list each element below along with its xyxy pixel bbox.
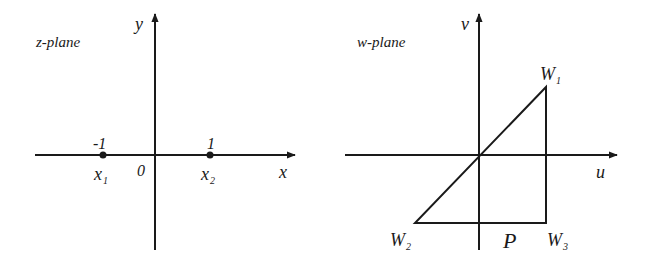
point-x1-value: -1: [93, 135, 106, 152]
z-plane-panel: z-plane x y 0 -1 x1 1 x2: [35, 14, 295, 250]
point-x2: 1 x2: [200, 135, 215, 186]
point-x2-name: x2: [200, 164, 215, 186]
point-x1: -1 x1: [93, 135, 108, 186]
w-plane-title: w-plane: [357, 34, 406, 50]
diagram-canvas: z-plane x y 0 -1 x1 1 x2 w-plane u v: [0, 0, 647, 267]
point-x2-dot: [207, 152, 214, 159]
point-x2-value: 1: [207, 135, 215, 152]
vertex-w3: W3: [547, 230, 568, 252]
point-x1-name: x1: [93, 164, 108, 186]
z-plane-title: z-plane: [35, 34, 81, 50]
region-label: P: [502, 228, 516, 253]
v-axis-label: v: [461, 14, 469, 34]
point-x1-dot: [100, 152, 107, 159]
vertex-w1: W1: [540, 64, 561, 86]
y-axis-label: y: [133, 14, 143, 34]
vertex-w2: W2: [390, 230, 411, 252]
origin-label: 0: [137, 162, 145, 179]
w-plane-panel: w-plane u v P W1 W2 W3: [345, 14, 617, 253]
u-axis-label: u: [596, 162, 605, 182]
x-axis-label: x: [278, 162, 287, 182]
